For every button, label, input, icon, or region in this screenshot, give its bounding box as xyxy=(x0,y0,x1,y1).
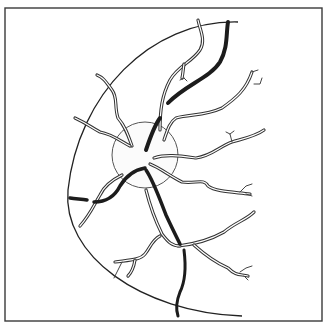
vessel-twig-5 xyxy=(114,262,122,278)
lower-right-branch-outline xyxy=(194,245,248,276)
vessel-twig-4 xyxy=(240,266,252,280)
lower-right-vessel-outline xyxy=(178,212,254,246)
lower-right-vessel xyxy=(178,212,254,246)
upper-right-vessel-1-outline xyxy=(164,72,252,140)
fundus-figure xyxy=(0,0,327,324)
fundus-drawing xyxy=(0,0,327,324)
lower-right-branch xyxy=(194,245,248,276)
left-vein-edge xyxy=(70,198,87,200)
upper-left-vessel-outline xyxy=(97,75,132,146)
upper-right-vessel-1 xyxy=(164,72,252,140)
